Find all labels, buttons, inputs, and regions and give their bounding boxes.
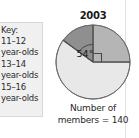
legend-item-13-14: 13–14 year-olds [0,59,42,81]
pie-svg: 54° [54,23,132,101]
chart-legend: Key: 11–12 year-olds 13–14 year-olds 15–… [0,22,43,117]
legend-label-13-14: 13–14 year-olds [1,59,38,81]
pie-slice-13-14 [93,25,130,62]
caption-line-1: Number of [47,103,139,115]
chart-area: 2003 54° [47,10,139,138]
pie-chart-figure: Key: 11–12 year-olds 13–14 year-olds 15–… [0,0,139,138]
legend-label-15-16-line1: 15–16 [1,82,26,92]
legend-label-13-14-line1: 13–14 [1,59,26,69]
caption-line-2: members = 140 [47,115,139,127]
legend-label-11-12-line1: 11–12 [1,36,26,46]
pie-chart: 54° [54,23,132,101]
legend-item-15-16: 15–16 year-olds [0,82,42,104]
chart-title: 2003 [54,10,132,22]
legend-label-11-12-line2: year-olds [1,47,38,58]
chart-caption: Number of members = 140 [47,103,139,126]
legend-label-13-14-line2: year-olds [1,70,38,81]
legend-label-15-16-line2: year-olds [1,93,38,104]
legend-title: Key: [0,25,42,35]
legend-label-15-16: 15–16 year-olds [1,82,38,104]
angle-label-54: 54° [77,48,94,59]
legend-item-11-12: 11–12 year-olds [0,36,42,58]
legend-label-11-12: 11–12 year-olds [1,36,38,58]
